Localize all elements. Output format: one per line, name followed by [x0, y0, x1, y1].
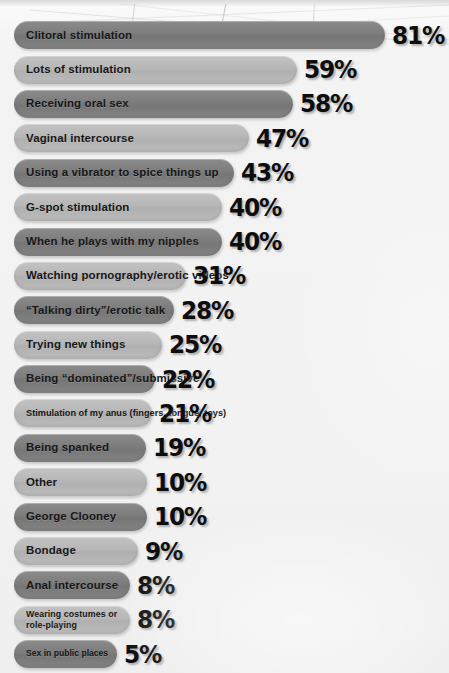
bar-value: 40% [229, 229, 281, 254]
bar: Bondage [14, 537, 138, 565]
bar-row: Watching pornography/erotic videos31% [0, 259, 449, 293]
bar: Lots of stimulation [14, 56, 297, 84]
bar: Sex in public places [14, 640, 117, 668]
bar-row: Other10% [0, 465, 449, 499]
survey-bar-chart: Clitoral stimulation81%Lots of stimulati… [0, 0, 449, 673]
bar-value: 5% [124, 642, 161, 667]
bar-row: Stimulation of my anus (fingers, tongue,… [0, 396, 449, 430]
bar-row: George Clooney10% [0, 499, 449, 533]
bar-row: Lots of stimulation59% [0, 52, 449, 86]
bar: Being spanked [14, 434, 146, 462]
bar-label: Sex in public places [26, 649, 108, 659]
bar-value: 9% [145, 539, 182, 564]
bar-label: Vaginal intercourse [26, 132, 134, 145]
bar-row: Being spanked19% [0, 431, 449, 465]
bar-value: 47% [256, 126, 308, 151]
bar-row: Anal intercourse8% [0, 568, 449, 602]
bar-value: 59% [304, 57, 356, 82]
bar: G-spot stimulation [14, 193, 222, 221]
bar-label: “Talking dirty”/erotic talk [26, 304, 165, 317]
bar-value: 40% [229, 195, 281, 220]
bar: Trying new things [14, 331, 162, 359]
bar-label: George Clooney [26, 510, 116, 523]
bar-label: Trying new things [26, 338, 125, 351]
bar-value: 58% [300, 91, 352, 116]
bar-value: 28% [181, 298, 233, 323]
bar-value: 31% [193, 263, 245, 288]
bar-row: Clitoral stimulation81% [0, 18, 449, 52]
bar-row: Bondage9% [0, 534, 449, 568]
bar-label: When he plays with my nipples [26, 235, 199, 248]
bar: When he plays with my nipples [14, 228, 222, 256]
bar: Watching pornography/erotic videos [14, 262, 186, 290]
bar: Stimulation of my anus (fingers, tongue,… [14, 399, 152, 427]
bar-row: Being “dominated”/submissive22% [0, 362, 449, 396]
bar-value: 10% [154, 470, 206, 495]
bar-value: 8% [137, 607, 174, 632]
bar-label: Lots of stimulation [26, 63, 131, 76]
bar: Being “dominated”/submissive [14, 365, 155, 393]
bar-label: G-spot stimulation [26, 201, 129, 214]
bar: Wearing costumes orrole-playing [14, 606, 130, 634]
bar-value: 22% [162, 367, 214, 392]
bar: Using a vibrator to spice things up [14, 159, 234, 187]
bar-value: 19% [153, 435, 205, 460]
bar-label: Being spanked [26, 441, 109, 454]
bar-label: Other [26, 476, 57, 489]
bar-row: G-spot stimulation40% [0, 190, 449, 224]
bar: “Talking dirty”/erotic talk [14, 296, 174, 324]
bar-label: Wearing costumes orrole-playing [26, 609, 117, 631]
bar-row: Wearing costumes orrole-playing8% [0, 603, 449, 637]
bar-value: 21% [159, 401, 211, 426]
bar-label: Anal intercourse [26, 579, 118, 592]
bar-rows: Clitoral stimulation81%Lots of stimulati… [0, 18, 449, 673]
bar-label: Bondage [26, 544, 76, 557]
bar-row: Using a vibrator to spice things up43% [0, 156, 449, 190]
bar-label: Clitoral stimulation [26, 29, 132, 42]
bar: Other [14, 468, 147, 496]
bar-label: Receiving oral sex [26, 97, 129, 110]
bar-value: 81% [392, 23, 444, 48]
bar-value: 25% [169, 332, 221, 357]
bar: Vaginal intercourse [14, 124, 249, 152]
bar-row: Sex in public places5% [0, 637, 449, 671]
bar: Anal intercourse [14, 571, 130, 599]
bar-row: “Talking dirty”/erotic talk28% [0, 293, 449, 327]
bar-label: Using a vibrator to spice things up [26, 166, 219, 179]
bar: Receiving oral sex [14, 90, 293, 118]
bar-row: Trying new things25% [0, 328, 449, 362]
bar-value: 10% [154, 504, 206, 529]
bar-row: When he plays with my nipples40% [0, 224, 449, 258]
bar: George Clooney [14, 503, 147, 531]
bar-value: 8% [137, 573, 174, 598]
bar-value: 43% [241, 160, 293, 185]
bar-row: Vaginal intercourse47% [0, 121, 449, 155]
bar-row: Receiving oral sex58% [0, 87, 449, 121]
bar: Clitoral stimulation [14, 21, 385, 49]
